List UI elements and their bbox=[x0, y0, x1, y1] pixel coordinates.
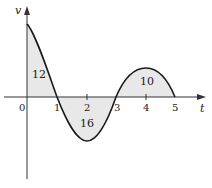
tick-label-1: 1 bbox=[54, 102, 60, 113]
y-axis-arrow-icon bbox=[24, 6, 30, 15]
tick-label-2: 2 bbox=[84, 102, 90, 113]
tick-label-4: 4 bbox=[143, 102, 149, 113]
x-axis-arrow-icon bbox=[197, 94, 206, 100]
area-label-10: 10 bbox=[140, 75, 154, 88]
tick-label-5: 5 bbox=[172, 102, 178, 113]
velocity-chart: v t 0 1 2 3 4 5 12 16 10 bbox=[0, 0, 212, 188]
x-axis-label: t bbox=[200, 102, 205, 115]
y-axis-label: v bbox=[15, 4, 22, 17]
tick-label-3: 3 bbox=[114, 102, 120, 113]
area-label-12: 12 bbox=[32, 68, 46, 81]
origin-label: 0 bbox=[19, 102, 25, 113]
area-label-16: 16 bbox=[80, 117, 94, 130]
